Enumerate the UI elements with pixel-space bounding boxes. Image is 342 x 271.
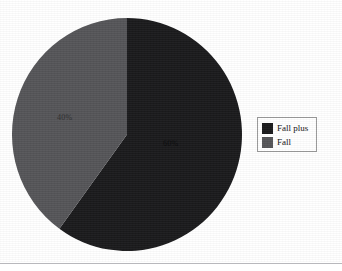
figure-bottom-margin	[0, 264, 342, 271]
legend-swatch-fall	[262, 137, 273, 148]
legend-item-fall-plus[interactable]: Fall plus	[262, 121, 313, 135]
pie-label-fall: 40%	[57, 113, 72, 122]
chart-legend: Fall plus Fall	[257, 117, 317, 152]
legend-item-fall[interactable]: Fall	[262, 135, 313, 149]
legend-label-fall-plus: Fall plus	[277, 123, 308, 133]
legend-label-fall: Fall	[277, 137, 291, 147]
pie-chart	[12, 18, 242, 251]
pie-label-fall-plus: 60%	[163, 139, 178, 148]
plot-area: 40% 60% Fall plus Fall	[0, 0, 342, 262]
legend-swatch-fall-plus	[262, 123, 273, 134]
pie-chart-figure: 40% 60% Fall plus Fall	[0, 0, 342, 271]
